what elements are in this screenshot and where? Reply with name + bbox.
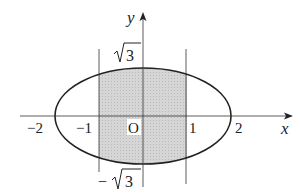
y-axis-label: y: [125, 8, 135, 27]
x-axis-label: x: [280, 119, 289, 138]
x-tick-minus-2: −2: [27, 120, 43, 136]
x-tick-1: 1: [189, 120, 197, 136]
origin-label: O: [128, 120, 139, 136]
y-tick-minus-sqrt3-radicand: 3: [125, 173, 133, 190]
y-tick-sqrt3: 3: [114, 43, 141, 64]
y-tick-minus-sqrt3: − 3: [98, 169, 141, 190]
y-tick-sqrt3-radicand: 3: [126, 47, 134, 64]
x-tick-2: 2: [235, 120, 243, 136]
ellipse-diagram: y x O −2 −1 1 2 3 − 3: [0, 0, 300, 196]
x-tick-minus-1: −1: [76, 120, 92, 136]
y-tick-minus-sign: −: [98, 173, 107, 190]
